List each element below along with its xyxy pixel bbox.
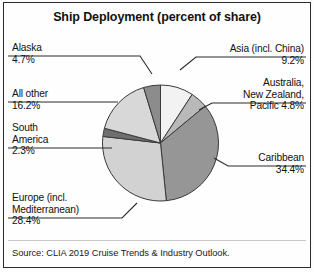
label-alaska-value: 4.7% xyxy=(12,54,42,66)
label-alaska-name: Alaska xyxy=(12,42,42,53)
source-separator xyxy=(8,240,306,241)
label-europe-name-1: Europe (incl. xyxy=(12,192,67,203)
label-all-other-name: All other xyxy=(12,88,48,99)
chart-figure: Ship Deployment (percent of share) Alask… xyxy=(0,0,314,272)
label-caribbean-value: 34.4% xyxy=(258,164,304,176)
label-europe-value: 28.4% xyxy=(12,215,79,227)
label-caribbean: Caribbean 34.4% xyxy=(258,152,304,175)
label-europe: Europe (incl. Mediterranean) 28.4% xyxy=(12,192,79,227)
label-south-america-name-1: South xyxy=(12,122,38,133)
pie-slices xyxy=(102,85,218,201)
label-south-america-value: 2.3% xyxy=(12,145,48,157)
label-caribbean-name: Caribbean xyxy=(258,152,304,163)
label-all-other-value: 16.2% xyxy=(12,100,48,112)
label-australia-name-2: New Zealand, xyxy=(243,89,304,101)
label-australia-name-1: Australia, xyxy=(263,77,304,88)
label-all-other: All other 16.2% xyxy=(12,88,48,111)
label-alaska: Alaska 4.7% xyxy=(12,42,42,65)
label-australia: Australia, New Zealand, Pacific 4.8% xyxy=(243,77,304,112)
label-asia-name: Asia (incl. China) xyxy=(230,43,304,54)
label-south-america: South America 2.3% xyxy=(12,122,48,157)
label-south-america-name-2: America xyxy=(12,134,48,146)
label-asia-value: 9.2% xyxy=(230,55,304,67)
label-australia-name-3: Pacific 4.8% xyxy=(243,100,304,112)
source-note: Source: CLIA 2019 Cruise Trends & Indust… xyxy=(12,248,230,258)
label-europe-name-2: Mediterranean) xyxy=(12,204,79,216)
pie-slice-europe-incl-mediterranean xyxy=(102,136,166,201)
label-asia: Asia (incl. China) 9.2% xyxy=(230,43,304,66)
